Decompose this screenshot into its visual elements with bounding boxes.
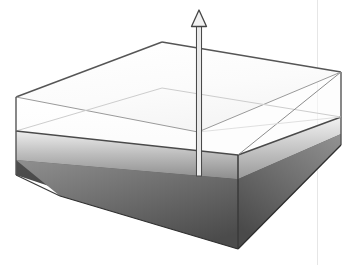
diagram-svg	[0, 0, 355, 265]
figure-canvas	[0, 0, 355, 265]
arrow-head-icon	[192, 10, 207, 27]
arrow-shaft-fill	[197, 26, 201, 176]
